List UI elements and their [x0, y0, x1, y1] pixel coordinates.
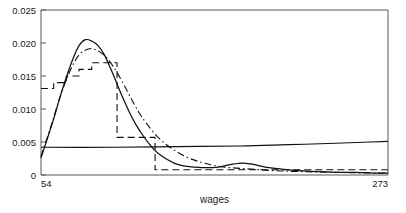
y-tick-label-4: 0.020 — [12, 38, 36, 49]
y-tick-label-0: 0 — [31, 170, 36, 181]
y-tick-label-5: 0.025 — [12, 5, 36, 16]
series-histogram-step-estimate — [41, 63, 388, 170]
x-axis-tick-labels: 54 273 — [41, 178, 388, 189]
density-plot-figure: 0 0.005 0.010 0.015 0.020 0.025 54 273 w… — [0, 0, 406, 213]
x-axis-title: wages — [199, 194, 229, 205]
series-baseline-reference-line — [41, 141, 388, 147]
y-axis-tick-labels: 0 0.005 0.010 0.015 0.020 0.025 — [12, 5, 36, 181]
plot-frame — [41, 10, 388, 175]
series-smooth-comparison-estimate — [41, 49, 388, 173]
series-kernel-density-estimate — [41, 39, 388, 173]
chart-canvas: 0 0.005 0.010 0.015 0.020 0.025 54 273 w… — [0, 0, 406, 213]
x-tick-label-min: 54 — [41, 178, 52, 189]
x-tick-label-max: 273 — [372, 178, 388, 189]
data-series-group — [41, 39, 388, 173]
y-tick-label-2: 0.010 — [12, 104, 36, 115]
y-tick-label-1: 0.005 — [12, 137, 36, 148]
y-tick-label-3: 0.015 — [12, 71, 36, 82]
